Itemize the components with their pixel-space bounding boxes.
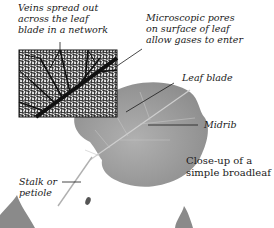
- midrib-label: Midrib: [204, 119, 237, 130]
- pores-label: Microscopic pores on surface of leaf all…: [146, 12, 243, 45]
- stalk-label-line: Stalk or: [19, 176, 57, 187]
- veins-label-line: Veins spread out: [18, 2, 108, 13]
- veins-label-line: across the leaf: [18, 13, 108, 24]
- stalk-label-line: petiole: [19, 187, 57, 198]
- insect-shape: [84, 196, 91, 205]
- stalk-label: Stalk or petiole: [19, 176, 57, 198]
- veins-label: Veins spread out across the leaf blade i…: [18, 2, 108, 35]
- pores-label-line: on surface of leaf: [146, 23, 243, 34]
- veins-label-line: blade in a network: [18, 24, 108, 35]
- caption-line: Close-up of a: [186, 155, 271, 167]
- leaf-blade-label: Leaf blade: [182, 72, 233, 83]
- caption-line: simple broadleaf: [186, 167, 271, 179]
- vein-network-inset: [19, 50, 117, 117]
- pores-label-line: allow gases to enter: [146, 34, 243, 45]
- pores-label-line: Microscopic pores: [146, 12, 243, 23]
- figure-caption: Close-up of a simple broadleaf: [186, 155, 271, 179]
